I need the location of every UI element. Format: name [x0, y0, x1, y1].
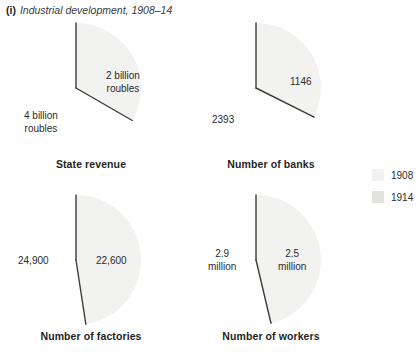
legend-label-1908: 1908: [391, 170, 413, 181]
legend-swatch-1908: [372, 169, 384, 181]
pie-chart-number-of-factories: Number of factories 22,60024,900: [6, 190, 176, 358]
legend-label-1914: 1914: [391, 192, 413, 203]
pie-caption-2: Number of factories: [6, 330, 176, 342]
pie-chart-number-of-banks: Number of banks 11462393: [186, 18, 356, 186]
legend-swatch-1914: [372, 191, 384, 203]
pie-caption-1: Number of banks: [186, 158, 356, 170]
figure-title: (i)Industrial development, 1908–14: [6, 4, 172, 17]
pie-chart-state-revenue: State revenue 2 billion roubles4 billion…: [6, 18, 176, 186]
pie-svg-0: [6, 18, 176, 160]
legend-item-1914[interactable]: 1914: [372, 186, 418, 208]
figure-title-text: Industrial development, 1908–14: [20, 4, 172, 16]
pie-svg-3: [186, 190, 356, 332]
legend-item-1908[interactable]: 1908: [372, 164, 418, 186]
pie-svg-2: [6, 190, 176, 332]
pie-caption-3: Number of workers: [186, 330, 356, 342]
pie-caption-0: State revenue: [6, 158, 176, 170]
figure-marker: (i): [6, 4, 16, 16]
pie-svg-1: [186, 18, 356, 160]
legend: 1908 1914: [372, 164, 418, 208]
pie-chart-number-of-workers: Number of workers 2.5 million2.9 million: [186, 190, 356, 358]
